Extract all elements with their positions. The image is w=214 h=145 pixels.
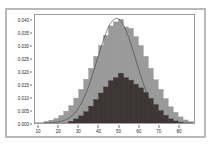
y-axis-tick-mark — [30, 98, 33, 99]
y-axis-tick-mark — [30, 124, 33, 125]
x-axis-tick-mark — [138, 125, 139, 128]
y-axis-tick-mark — [30, 72, 33, 73]
x-axis-tick-mark — [118, 125, 119, 128]
histogram-bar — [69, 121, 74, 123]
y-axis-tick-label: 0.020 — [18, 70, 29, 75]
histogram-bar — [114, 78, 119, 123]
y-axis-tick-label: 0.040 — [18, 18, 29, 23]
x-axis-tick-label: 80 — [176, 129, 181, 134]
x-axis-tick-label: 60 — [136, 129, 141, 134]
histogram-bar — [79, 116, 84, 123]
x-axis-tick-mark — [98, 125, 99, 128]
x-axis-tick-label: 30 — [76, 129, 81, 134]
histogram-bar — [74, 119, 79, 123]
x-axis-tick-mark — [78, 125, 79, 128]
histogram-bar — [123, 78, 128, 123]
x-axis-tick-label: 20 — [56, 129, 61, 134]
y-axis-tick-mark — [30, 85, 33, 86]
histogram-bar — [138, 88, 143, 123]
histogram-bar — [99, 93, 104, 123]
histogram-bar — [143, 93, 148, 123]
y-axis-tick-label: 0.035 — [18, 31, 29, 36]
y-axis-tick-mark — [30, 46, 33, 47]
histogram-bar — [128, 80, 133, 123]
y-axis-tick-mark — [30, 59, 33, 60]
x-axis-tick-mark — [178, 125, 179, 128]
histogram-chart-svg — [35, 15, 194, 123]
y-axis-tick-mark — [30, 111, 33, 112]
x-axis-tick-mark — [38, 125, 39, 128]
y-axis-tick-label: 0.025 — [18, 57, 29, 62]
plot-inner-area — [35, 15, 194, 123]
y-axis-tick-label: 0.010 — [18, 96, 29, 101]
histogram-bar — [104, 87, 109, 123]
y-axis-tick-labels: 0.0000.0050.0100.0150.0200.0250.0300.035… — [5, 14, 32, 124]
plot-panel — [34, 14, 195, 124]
figure-container: 0.0000.0050.0100.0150.0200.0250.0300.035… — [0, 0, 214, 145]
y-axis-tick-label: 0.015 — [18, 83, 29, 88]
histogram-bar — [64, 111, 69, 123]
histogram-bar — [84, 112, 89, 123]
y-axis-tick-label: 0.030 — [18, 44, 29, 49]
y-axis-tick-mark — [30, 20, 33, 21]
x-axis-tick-label: 10 — [36, 129, 41, 134]
histogram-bar — [133, 84, 138, 123]
x-axis-tick-label: 50 — [116, 129, 121, 134]
y-axis-tick-label: 0.000 — [18, 122, 29, 127]
y-axis-tick-label: 0.005 — [18, 109, 29, 114]
x-axis-tick-label: 40 — [96, 129, 101, 134]
x-axis-tick-mark — [58, 125, 59, 128]
x-axis-tick-mark — [158, 125, 159, 128]
x-axis-tick-labels: 1020304050607080 — [34, 125, 195, 139]
x-axis-tick-label: 70 — [156, 129, 161, 134]
histogram-bar — [89, 106, 94, 123]
histogram-bar — [109, 81, 114, 123]
y-axis-tick-mark — [30, 33, 33, 34]
histogram-bar — [118, 73, 123, 123]
histogram-bar — [94, 100, 99, 123]
